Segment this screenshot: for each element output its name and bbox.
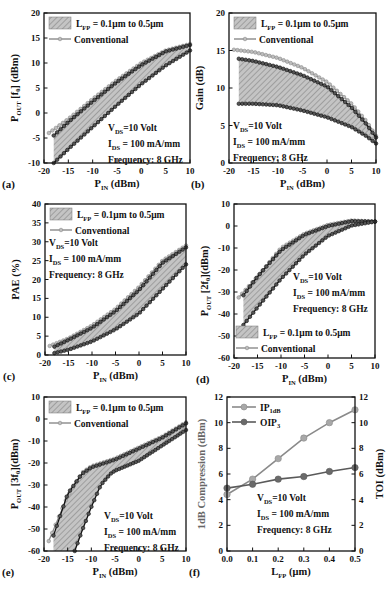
data-marker [164,434,168,438]
data-marker [174,273,178,277]
data-marker [79,534,83,538]
data-marker [84,519,88,523]
data-marker [101,481,105,485]
x-tick-label: -5 [299,166,307,176]
data-marker [175,47,179,51]
data-marker [110,108,114,112]
data-marker [307,69,311,73]
legend-marker-conventional [59,228,63,232]
data-marker [112,328,116,332]
data-marker [330,88,334,92]
svg-text:Frequency: 8 GHz: Frequency: 8 GHz [108,155,184,165]
data-marker [244,58,248,62]
data-marker [47,539,51,543]
y-tick-label: -50 [28,524,40,534]
y-tick-label: 0 [36,108,41,118]
data-marker [174,252,178,256]
legend-swatch-band [234,17,256,29]
data-marker [147,76,151,80]
svg-text:VDS=10 Volt: VDS=10 Volt [293,272,343,284]
data-marker [151,57,155,61]
data-marker [130,70,134,74]
data-marker [257,51,261,55]
data-marker [353,223,357,227]
chart-panel-f: 0.00.10.20.30.40.5002244668810101212LFP … [189,392,386,579]
svg-text:PIN (dBm): PIN (dBm) [93,370,138,383]
data-marker [278,279,282,283]
data-marker [307,249,311,253]
data-marker [164,63,168,67]
data-marker [340,121,344,125]
x-tick-label: -10 [272,166,284,176]
data-marker [285,60,289,64]
data-marker [343,123,347,127]
legend-swatch-band [50,208,72,220]
data-marker [300,66,304,70]
data-marker [155,294,159,298]
y-tick-label: 12 [214,392,224,402]
conditions-annotation: VDS=10 VoltIDS = 100 mA/mmFrequency: 8 G… [49,238,125,280]
data-marker [284,245,288,249]
svg-text:LFP = 0.1μm to 0.5μm: LFP = 0.1μm to 0.5μm [77,210,165,222]
data-marker [100,117,104,121]
data-marker [275,56,279,60]
x-tick-label: 0.4 [324,554,336,564]
x-axis-label: PIN (dBm) [93,370,138,383]
data-marker [278,66,282,70]
data-marker [69,145,73,149]
svg-text:POUT [3f₀](dBm): POUT [3f₀](dBm) [9,438,22,509]
data-marker [115,327,119,331]
data-marker [174,428,178,432]
svg-text:LFP = 0.1μm to 0.5μm: LFP = 0.1μm to 0.5μm [261,19,349,31]
data-marker [138,311,142,315]
data-marker [268,261,272,265]
data-marker [125,320,129,324]
data-marker [350,126,354,130]
data-marker [181,266,185,270]
data-marker [103,90,107,94]
data-marker [148,300,152,304]
data-marker [340,221,344,225]
data-marker [243,49,247,53]
data-marker [104,478,108,482]
y-tick-label: -60 [28,546,40,556]
data-marker [255,307,259,311]
data-marker [326,468,332,474]
data-marker [130,90,134,94]
y-tick-label: -30 [28,480,40,490]
data-marker [144,61,148,65]
data-marker [161,51,165,55]
data-marker [123,96,127,100]
data-marker [271,257,275,261]
conditions-annotation: VDS=10 VoltIDS = 100 mA/mmFrequency: 8 G… [257,493,333,535]
legend: LFP = 0.1μm to 0.5μmConventional [234,17,349,45]
x-tick-label: 0 [325,166,330,176]
legend: LFP = 0.1μm to 0.5μmConventional [50,208,165,236]
data-marker [132,315,136,319]
x-tick-label: 5 [349,361,354,371]
legend-marker-conventional [58,421,62,425]
svg-text:POUT [2f₀](dBm): POUT [2f₀](dBm) [199,245,212,316]
svg-text:Frequency: 8 GHz: Frequency: 8 GHz [257,525,333,535]
data-marker [65,495,69,499]
svg-text:Conventional: Conventional [75,226,130,236]
data-marker [178,55,182,59]
y-tick-label: 5 [37,331,42,341]
data-marker [185,44,189,48]
y-tick-label: 0 [221,158,226,168]
data-marker [51,129,55,133]
data-marker [171,59,175,63]
y-tick-label: 15 [31,33,41,43]
data-marker [118,324,122,328]
panel-label: (c) [3,370,16,383]
data-marker [271,287,275,291]
data-marker [122,302,126,306]
data-marker [181,424,185,428]
x-tick-label: 5 [160,358,165,368]
x-tick-label: 0.3 [298,554,310,564]
data-marker [292,107,296,111]
data-marker [79,136,83,140]
data-marker [154,71,158,75]
y-tick-label: 20 [216,8,226,18]
legend-marker-conventional [243,37,247,41]
